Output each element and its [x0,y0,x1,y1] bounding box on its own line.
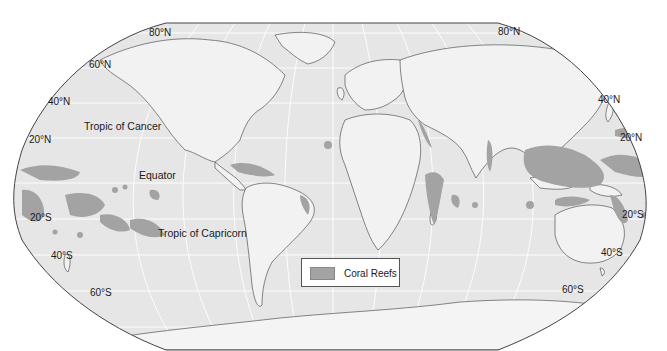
tropic-of-cancer-label: Tropic of Cancer [84,121,161,132]
lat-label-80n-right: 80°N [498,27,520,37]
lat-label-40s-left: 40°S [51,251,73,261]
lat-label-60n-left: 60°N [89,60,111,70]
coral-reef-swatch [310,267,335,280]
lat-label-20s-right: 20°S [622,210,644,220]
lat-label-20n-right: 20°N [620,133,642,143]
lat-label-60s-left: 60°S [90,288,112,298]
map-legend: Coral Reefs [301,258,400,287]
tropic-of-capricorn-label: Tropic of Capricorn [158,228,247,239]
legend-label-coral-reefs: Coral Reefs [344,268,397,279]
lat-label-20n-left: 20°N [29,135,51,145]
lat-label-80n-left: 80°N [149,28,171,38]
equator-label: Equator [139,170,176,181]
lat-label-40n-left: 40°N [48,97,70,107]
lat-label-40s-right: 40°S [601,248,623,258]
lat-label-40n-right: 40°N [598,95,620,105]
lat-label-60s-right: 60°S [562,285,584,295]
lat-label-20s-left: 20°S [30,213,52,223]
world-map [0,0,667,351]
